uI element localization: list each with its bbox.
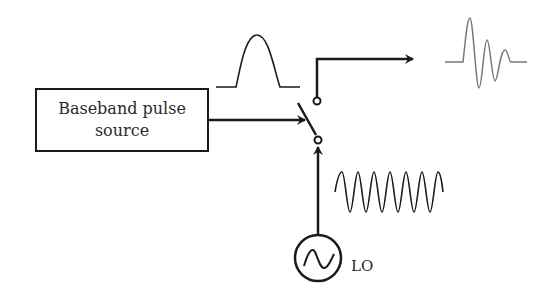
switch-upper-terminal bbox=[314, 98, 321, 105]
baseband-pulse-waveform bbox=[216, 35, 300, 87]
lo-label: LO bbox=[351, 257, 373, 275]
lo-waveform bbox=[335, 172, 443, 212]
output-waveform bbox=[445, 18, 527, 88]
source-label-line2: source bbox=[95, 120, 149, 142]
baseband-pulse-source: Baseband pulse source bbox=[35, 88, 209, 152]
source-label-line1: Baseband pulse bbox=[58, 98, 186, 120]
switch-lower-terminal bbox=[315, 137, 322, 144]
output-path bbox=[317, 59, 413, 97]
